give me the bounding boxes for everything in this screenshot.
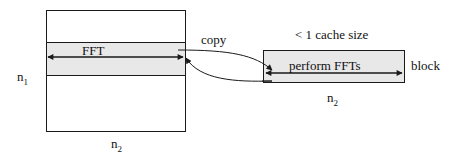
- copy-label: copy: [201, 33, 226, 46]
- n2-base: n: [111, 136, 118, 151]
- perform-ffts-label: perform FFTs: [289, 59, 361, 72]
- n2-sub: 2: [118, 144, 123, 154]
- fft-label: FFT: [82, 44, 104, 57]
- cache-size-label: < 1 cache size: [295, 28, 368, 41]
- n1-base: n: [17, 69, 24, 84]
- matrix-band: [47, 43, 186, 76]
- copy-arrow: [178, 50, 272, 70]
- block-n2-label: n2: [327, 91, 338, 106]
- n1-label: n1: [17, 70, 28, 85]
- block-n2-base: n: [327, 90, 334, 105]
- block-label: block: [411, 59, 440, 72]
- matrix-n2-label: n2: [111, 137, 122, 152]
- diagram-canvas: [0, 0, 457, 157]
- block-n2-sub: 2: [334, 98, 339, 108]
- n1-sub: 1: [24, 77, 29, 87]
